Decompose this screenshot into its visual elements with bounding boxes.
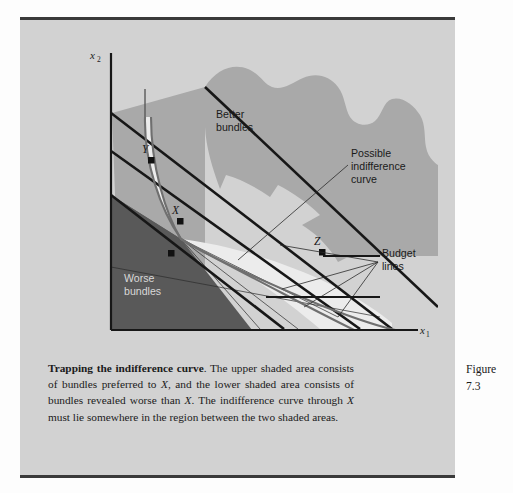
x-axis-label-text: x: [419, 324, 425, 336]
worse-bundles-label-line1: Worse: [124, 272, 155, 284]
x-axis-label: x 1: [419, 324, 430, 339]
y-axis-label-sub: 2: [97, 55, 101, 64]
point-label-Z: Z: [314, 235, 321, 247]
caption-var-3: X: [347, 394, 354, 406]
caption-rest-4: must lie somewhere in the region between…: [48, 411, 338, 423]
x-axis-label-sub: 1: [426, 330, 430, 339]
y-axis-label-text: x: [89, 49, 95, 61]
figure-caption: Trapping the indifference curve. The upp…: [48, 360, 354, 425]
figure-page: x 2 x 1 Y X Z: [0, 0, 513, 493]
figure-number: Figure 7.3: [466, 362, 512, 395]
budget-callout-line1: Budget: [382, 247, 416, 259]
indifference-callout-line2: indifference: [351, 160, 406, 172]
figure-number-line1: Figure: [466, 362, 512, 379]
point-marker-W: [168, 250, 175, 257]
plot-area: x 2 x 1 Y X Z: [20, 17, 455, 347]
y-axis-label: x 2: [89, 49, 101, 64]
better-bundles-label-line2: bundles: [216, 121, 253, 133]
indifference-callout-line3: curve: [351, 173, 377, 185]
caption-var-1: X: [161, 378, 168, 390]
worse-bundles-label-line2: bundles: [124, 285, 161, 297]
caption-rest-3: . The indifference curve through: [191, 394, 347, 406]
better-bundles-label-line1: Better: [216, 108, 245, 120]
budget-callout-line2: lines: [382, 260, 404, 272]
caption-lead: Trapping the indifference curve: [48, 362, 204, 374]
point-label-X: X: [171, 204, 180, 216]
indifference-callout-line1: Possible: [351, 147, 391, 159]
figure-number-line2: 7.3: [466, 379, 512, 396]
